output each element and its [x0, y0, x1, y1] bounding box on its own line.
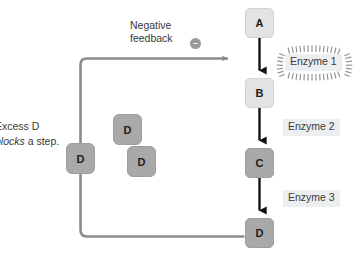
- d-molecule-lower-label: D: [138, 156, 146, 168]
- excess-d-caption: Excess D blocks a step.: [0, 119, 100, 149]
- pathway-node-a-label: A: [255, 17, 263, 29]
- excess-d-caption-line1: Excess D: [0, 119, 100, 134]
- excess-d-caption-rest: a step.: [25, 135, 59, 147]
- diagram-canvas: A B C D Enzyme 1 Enzyme 2 Enzyme 3 Negat…: [0, 0, 353, 260]
- enzyme-2-text: Enzyme 2: [288, 120, 335, 132]
- pathway-node-d-label: D: [255, 227, 263, 239]
- excess-d-caption-italic: blocks: [0, 135, 25, 147]
- enzyme-3-text: Enzyme 3: [288, 191, 335, 203]
- pathway-node-b-label: B: [255, 87, 263, 99]
- enzyme-3-label: Enzyme 3: [283, 190, 340, 207]
- excess-d-caption-line2: blocks a step.: [0, 134, 100, 149]
- enzyme-1-text: Enzyme 1: [290, 55, 337, 67]
- d-molecule-on-path-label: D: [77, 153, 85, 165]
- minus-circle-icon: [190, 38, 201, 49]
- minus-bar: [193, 43, 198, 45]
- d-molecule-upper: D: [113, 114, 142, 145]
- pathway-node-b: B: [245, 78, 274, 108]
- pathway-node-d: D: [245, 218, 274, 248]
- d-molecule-upper-label: D: [124, 124, 132, 136]
- enzyme-2-label: Enzyme 2: [283, 119, 340, 136]
- enzyme-1-label: Enzyme 1: [285, 54, 342, 71]
- pathway-node-c-label: C: [255, 157, 263, 169]
- negative-feedback-line1: Negative: [130, 19, 205, 32]
- d-molecule-lower: D: [127, 146, 156, 177]
- pathway-node-c: C: [245, 148, 274, 178]
- pathway-node-a: A: [245, 8, 274, 38]
